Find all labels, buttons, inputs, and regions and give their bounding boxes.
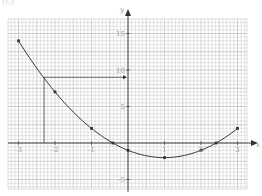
parabola-chart: -3-2-112315105-5xy <box>0 0 262 196</box>
data-point-marker <box>163 156 166 159</box>
data-point-marker <box>111 142 114 145</box>
data-point-marker <box>236 127 239 130</box>
y-tick-label: 10 <box>116 67 125 75</box>
x-tick-label: 1 <box>162 146 166 154</box>
axes <box>8 9 258 192</box>
y-tick-label: 15 <box>116 30 125 38</box>
y-axis-arrow-icon <box>125 9 131 16</box>
x-tick-label: 2 <box>199 146 203 154</box>
y-tick-label: 5 <box>121 103 125 111</box>
data-point-marker <box>54 91 57 94</box>
x-tick-label: -2 <box>52 146 59 154</box>
tick-labels: -3-2-112315105-5xy <box>15 6 260 184</box>
guide-arrow-icon <box>123 75 127 79</box>
x-tick-label: -1 <box>88 146 95 154</box>
guide-lines <box>44 75 127 143</box>
data-point-marker <box>215 142 218 145</box>
x-tick-label: -3 <box>15 146 22 154</box>
y-tick-label: -5 <box>118 176 125 184</box>
y-axis-label: y <box>119 6 125 14</box>
data-point-marker <box>127 149 130 152</box>
x-tick-label: 3 <box>235 146 239 154</box>
data-point-marker <box>17 39 20 42</box>
data-point-marker <box>90 127 93 130</box>
x-axis-label: x <box>256 141 260 149</box>
